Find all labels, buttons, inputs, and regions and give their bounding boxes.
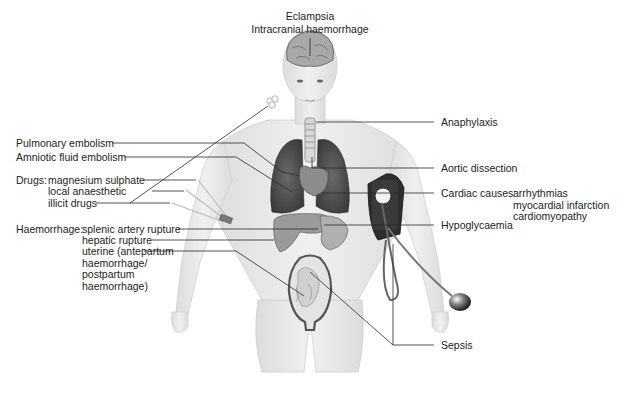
trachea-icon xyxy=(305,118,315,162)
label-amniotic-fluid-embolism: Amniotic fluid embolism xyxy=(16,151,126,164)
bp-bulb-icon xyxy=(449,293,471,311)
label-haem-uterine-3: postpartum xyxy=(82,268,135,281)
label-hypoglycaemia: Hypoglycaemia xyxy=(441,219,513,232)
pills-icon xyxy=(267,96,278,108)
label-haem-uterine-4: haemorrhage) xyxy=(82,280,148,293)
label-intracranial-haemorrhage: Intracranial haemorrhage xyxy=(250,23,370,36)
label-haem-uterine-1: uterine (antepartum xyxy=(82,245,174,258)
label-drug-illicit: illicit drugs xyxy=(48,197,97,210)
label-anaphylaxis: Anaphylaxis xyxy=(441,116,498,129)
label-drugs-heading: Drugs: xyxy=(16,174,47,187)
label-pulmonary-embolism: Pulmonary embolism xyxy=(16,137,114,150)
label-sepsis: Sepsis xyxy=(441,339,473,352)
label-cardiac-heading: Cardiac causes: xyxy=(441,187,516,200)
label-haemorrhage-heading: Haemorrhage: xyxy=(16,223,83,236)
label-cardiac-cardiomyopathy: cardiomyopathy xyxy=(513,210,587,223)
label-cardiac-arrhythmias: arrhythmias xyxy=(513,187,568,200)
label-drug-local-anaesthetic: local anaesthetic xyxy=(48,185,126,198)
label-eclampsia: Eclampsia xyxy=(250,10,370,23)
label-aortic-dissection: Aortic dissection xyxy=(441,162,517,175)
label-eclampsia-intracranial: Eclampsia Intracranial haemorrhage xyxy=(250,10,370,35)
